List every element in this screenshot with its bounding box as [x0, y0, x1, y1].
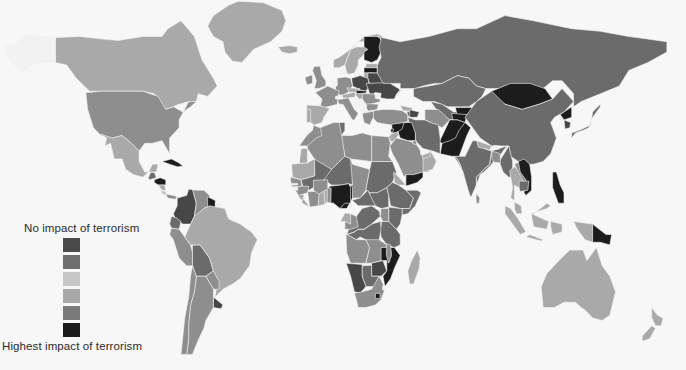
country-bhutan [494, 145, 500, 149]
country-lesotho [375, 293, 380, 298]
world-terrorism-impact-map: No impact of terrorism Highest impact of… [0, 0, 686, 370]
country-eswatini [383, 286, 386, 290]
country-cambodia [519, 181, 529, 191]
legend-bottom-label: Highest impact of terrorism [2, 340, 180, 353]
country-latvia [364, 68, 377, 73]
country-kuwait [413, 141, 417, 145]
country-qatar [421, 151, 423, 155]
country-gambia [292, 183, 298, 185]
country-north-macedonia [363, 109, 368, 112]
legend-swatch-4 [63, 289, 80, 303]
legend-swatch-1 [63, 238, 80, 252]
country-portugal [307, 109, 311, 122]
country-egypt [372, 136, 393, 162]
legend-swatch-5 [63, 306, 80, 320]
legend: No impact of terrorism Highest impact of… [0, 222, 180, 353]
legend-top-label: No impact of terrorism [24, 222, 180, 235]
legend-swatch-list [63, 238, 180, 337]
country-estonia [366, 64, 377, 68]
country-ivory-coast [308, 192, 320, 208]
country-moldova [375, 93, 382, 100]
country-netherlands [331, 80, 338, 87]
legend-swatch-2 [63, 255, 80, 269]
legend-swatch-3 [63, 272, 80, 286]
legend-swatch-6 [63, 323, 80, 337]
